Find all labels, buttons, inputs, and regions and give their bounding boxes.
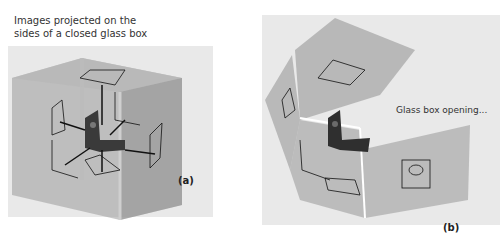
label-a: (a) (178, 175, 194, 186)
opening-glass-box (265, 18, 470, 218)
closed-glass-box (12, 58, 182, 220)
caption-a-line2: sides of a closed glass box (14, 27, 147, 40)
label-b: (b) (443, 222, 459, 233)
caption-b: Glass box opening... (396, 104, 487, 117)
caption-a: Images projected on the sides of a close… (14, 14, 147, 40)
caption-a-line1: Images projected on the (14, 14, 147, 27)
